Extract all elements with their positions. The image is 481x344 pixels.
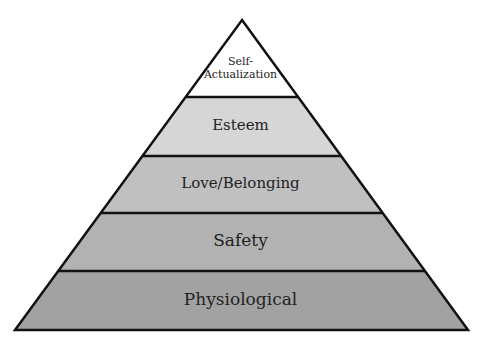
label-self-actualization-2: Actualization [0, 68, 481, 81]
label-safety: Safety [0, 230, 481, 250]
label-love-belonging: Love/Belonging [0, 174, 481, 192]
label-self-actualization-1: Self- [0, 55, 481, 68]
label-physiological: Physiological [0, 289, 481, 309]
label-esteem: Esteem [0, 116, 481, 134]
